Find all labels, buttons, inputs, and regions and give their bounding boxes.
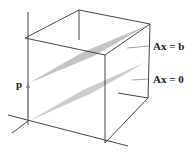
leader-upper: [127, 46, 149, 48]
arrowhead-icon: [26, 82, 30, 88]
plane-ax-eq-0: [29, 62, 146, 121]
leader-lower: [132, 79, 148, 80]
depth-axis: [12, 121, 28, 133]
label-p: p: [16, 78, 22, 90]
label-ax-eq-0: Ax = 0: [153, 73, 184, 85]
plane-ax-eq-b: [29, 25, 148, 83]
label-ax-eq-b: Ax = b: [153, 40, 184, 52]
horizontal-axis: [8, 115, 128, 146]
